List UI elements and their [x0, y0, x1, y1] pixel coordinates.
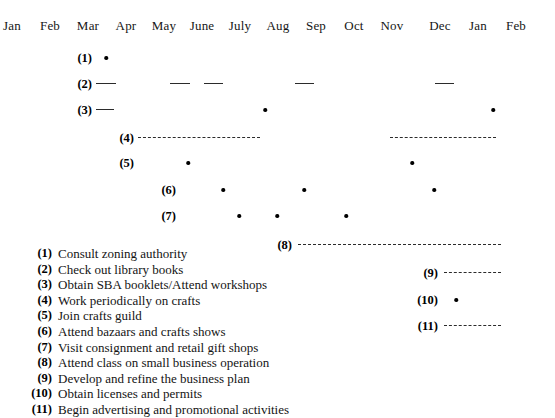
- month-tick-feb-1: Feb: [40, 18, 60, 34]
- task-row-5: (5): [0, 155, 555, 171]
- legend-item-text: Visit consignment and retail gift shops: [58, 340, 258, 356]
- marker-dot-5-1: [410, 161, 414, 165]
- month-tick-may-4: May: [152, 18, 176, 34]
- legend-item-text: Attend class on small business operation: [58, 355, 269, 371]
- legend-item-text: Begin advertising and promotional activi…: [58, 402, 289, 418]
- legend-item-text: Check out library books: [58, 262, 183, 278]
- legend-item-number: (7): [22, 340, 52, 356]
- legend-item: (8)Attend class on small business operat…: [22, 355, 342, 371]
- legend-item-number: (11): [22, 402, 52, 418]
- legend-item-text: Work periodically on crafts: [58, 293, 200, 309]
- legend: (1)Consult zoning authority(2)Check out …: [22, 246, 342, 418]
- legend-item-text: Obtain SBA booklets/Attend workshops: [58, 277, 267, 293]
- marker-dash-2-0: [96, 83, 116, 84]
- marker-dashline-8-0: [298, 244, 501, 245]
- legend-item-number: (6): [22, 324, 52, 340]
- legend-item: (7)Visit consignment and retail gift sho…: [22, 340, 342, 356]
- marker-dot-6-2: [432, 188, 436, 192]
- legend-item-number: (10): [22, 386, 52, 402]
- marker-dash-3-0: [96, 109, 114, 110]
- legend-item: (10)Obtain licenses and permits: [22, 386, 342, 402]
- legend-item-text: Develop and refine the business plan: [58, 371, 250, 387]
- task-row-label-2: (2): [77, 76, 92, 92]
- task-row-label-7: (7): [161, 208, 176, 224]
- task-row-label-5: (5): [119, 155, 134, 171]
- legend-item: (5)Join crafts guild: [22, 308, 342, 324]
- task-row-label-6: (6): [161, 182, 176, 198]
- task-row-6: (6): [0, 182, 555, 198]
- legend-item-number: (3): [22, 277, 52, 293]
- month-tick-apr-3: Apr: [116, 18, 137, 34]
- marker-dash-2-1: [170, 83, 190, 84]
- marker-dot-3-2: [491, 108, 495, 112]
- legend-item-text: Consult zoning authority: [58, 246, 187, 262]
- month-tick-feb-13: Feb: [506, 18, 526, 34]
- month-tick-nov-10: Nov: [381, 18, 404, 34]
- task-row-3: (3): [0, 102, 555, 118]
- month-tick-sep-8: Sep: [306, 18, 326, 34]
- task-row-2: (2): [0, 76, 555, 92]
- task-row-label-4: (4): [119, 130, 134, 146]
- month-tick-june-5: June: [190, 18, 215, 34]
- legend-item: (9)Develop and refine the business plan: [22, 371, 342, 387]
- marker-dashline-9-0: [444, 272, 501, 273]
- legend-item: (6)Attend bazaars and crafts shows: [22, 324, 342, 340]
- marker-spaced-4-1: [390, 137, 496, 138]
- task-row-4: (4): [0, 130, 555, 146]
- legend-item-number: (1): [22, 246, 52, 262]
- marker-dot-1-0: [104, 56, 108, 60]
- legend-item: (4)Work periodically on crafts: [22, 293, 342, 309]
- marker-dash-2-2: [204, 83, 223, 84]
- month-tick-oct-9: Oct: [344, 18, 363, 34]
- legend-item-text: Attend bazaars and crafts shows: [58, 324, 226, 340]
- legend-item: (11)Begin advertising and promotional ac…: [22, 402, 342, 418]
- marker-dot-7-2: [344, 214, 348, 218]
- task-row-1: (1): [0, 50, 555, 66]
- marker-dashline-11-0: [444, 325, 501, 326]
- marker-dot-7-0: [237, 214, 241, 218]
- marker-dash-2-4: [435, 83, 454, 84]
- marker-spaced-4-0: [138, 137, 260, 138]
- task-row-label-10: (10): [417, 292, 438, 308]
- month-tick-dec-11: Dec: [429, 18, 451, 34]
- task-row-label-3: (3): [77, 102, 92, 118]
- task-row-label-1: (1): [77, 50, 92, 66]
- marker-dot-3-1: [263, 108, 267, 112]
- legend-item-number: (9): [22, 371, 52, 387]
- legend-item-number: (4): [22, 293, 52, 309]
- month-tick-aug-7: Aug: [267, 18, 290, 34]
- marker-dot-7-1: [275, 214, 279, 218]
- legend-item-text: Obtain licenses and permits: [58, 386, 202, 402]
- legend-item-number: (5): [22, 308, 52, 324]
- legend-item: (3)Obtain SBA booklets/Attend workshops: [22, 277, 342, 293]
- task-row-label-11: (11): [418, 318, 438, 334]
- legend-item: (2)Check out library books: [22, 262, 342, 278]
- legend-item: (1)Consult zoning authority: [22, 246, 342, 262]
- marker-dot-6-0: [221, 188, 225, 192]
- legend-item-number: (8): [22, 355, 52, 371]
- month-tick-july-6: July: [229, 18, 251, 34]
- marker-dash-2-3: [295, 83, 314, 84]
- task-row-7: (7): [0, 208, 555, 224]
- task-row-label-9: (9): [423, 265, 438, 281]
- legend-item-text: Join crafts guild: [58, 308, 142, 324]
- month-tick-mar-2: Mar: [77, 18, 99, 34]
- marker-dot-5-0: [186, 161, 190, 165]
- marker-dot-6-1: [302, 188, 306, 192]
- legend-item-number: (2): [22, 262, 52, 278]
- month-tick-jan-0: Jan: [3, 18, 21, 34]
- marker-dot-10-0: [454, 298, 458, 302]
- month-axis: JanFebMarAprMayJuneJulyAugSepOctNovDecJa…: [0, 18, 555, 36]
- month-tick-jan-12: Jan: [469, 18, 487, 34]
